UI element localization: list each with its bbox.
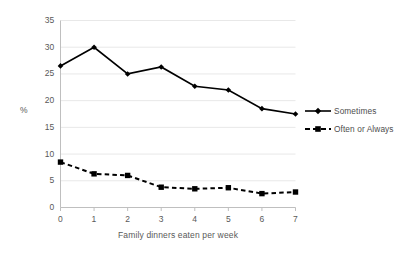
x-tick-label: 5 bbox=[220, 214, 236, 224]
legend-swatch-solid-diamond bbox=[305, 106, 331, 116]
y-tick-label: 30 bbox=[31, 42, 55, 52]
legend-swatch-dashed-square bbox=[305, 124, 331, 134]
x-tick-label: 1 bbox=[86, 214, 102, 224]
data-point-marker bbox=[125, 173, 130, 178]
y-axis-title: % bbox=[20, 105, 28, 115]
line-chart: 05101520253035 01234567 % Family dinners… bbox=[0, 0, 411, 254]
y-tick-label: 10 bbox=[31, 149, 55, 159]
data-point-marker bbox=[192, 186, 197, 191]
x-tick-label: 0 bbox=[53, 214, 69, 224]
data-point-marker bbox=[293, 111, 299, 117]
data-point-marker bbox=[91, 171, 96, 176]
x-tick-label: 4 bbox=[187, 214, 203, 224]
x-tick-label: 7 bbox=[288, 214, 304, 224]
y-tick-label: 20 bbox=[31, 95, 55, 105]
legend-label: Often or Always bbox=[334, 124, 394, 134]
y-tick-label: 5 bbox=[31, 175, 55, 185]
data-point-marker bbox=[58, 159, 63, 164]
x-tick-label: 6 bbox=[254, 214, 270, 224]
x-tick-label: 3 bbox=[153, 214, 169, 224]
legend-item-often-or-always: Often or Always bbox=[305, 124, 394, 134]
series-line-1 bbox=[61, 162, 296, 194]
y-tick-label: 15 bbox=[31, 122, 55, 132]
data-point-marker bbox=[293, 189, 298, 194]
y-tick-label: 0 bbox=[31, 202, 55, 212]
x-tick-label: 2 bbox=[120, 214, 136, 224]
legend-label: Sometimes bbox=[334, 106, 376, 116]
legend-item-sometimes: Sometimes bbox=[305, 106, 376, 116]
data-point-marker bbox=[159, 185, 164, 190]
x-axis-title: Family dinners eaten per week bbox=[60, 230, 296, 240]
data-point-marker bbox=[259, 191, 264, 196]
data-point-marker bbox=[226, 185, 231, 190]
y-tick-label: 25 bbox=[31, 68, 55, 78]
y-tick-label: 35 bbox=[31, 15, 55, 25]
series-line-0 bbox=[61, 47, 296, 114]
